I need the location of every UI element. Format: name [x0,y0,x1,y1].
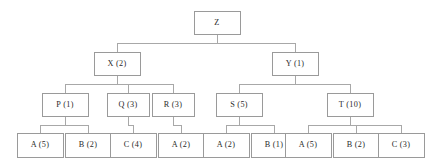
tree-node-Q[interactable]: Q (3) [108,94,150,117]
node-label-S: S (5) [230,100,248,109]
tree-node-X[interactable]: X (2) [95,53,141,76]
tree-node-L9[interactable]: C (3) [379,134,425,158]
tree-node-L1[interactable]: A (5) [18,134,64,158]
tree-node-L8[interactable]: B (2) [334,134,380,158]
tree-node-P[interactable]: P (1) [43,94,89,117]
node-label-L4: A (2) [172,140,191,149]
node-label-L7: A (5) [299,140,318,149]
node-label-Y: Y (1) [286,59,305,68]
node-label-R: R (3) [164,100,183,109]
tree-node-L5[interactable]: A (2) [204,134,250,158]
tree-diagram-canvas: ZX (2)Y (1)P (1)Q (3)R (3)S (5)T (10)A (… [0,0,439,164]
tree-node-L7[interactable]: A (5) [286,134,332,158]
node-label-X: X (2) [107,59,126,68]
tree-node-Y[interactable]: Y (1) [273,53,319,76]
tree-diagram: ZX (2)Y (1)P (1)Q (3)R (3)S (5)T (10)A (… [0,0,439,164]
node-label-P: P (1) [56,100,73,109]
tree-node-R[interactable]: R (3) [153,94,195,117]
node-label-Q: Q (3) [118,100,137,109]
node-label-Z: Z [214,18,219,27]
node-label-L5: A (2) [217,140,236,149]
tree-node-T[interactable]: T (10) [328,94,374,117]
edges-layer [40,34,401,133]
tree-node-Z[interactable]: Z [195,12,241,35]
node-label-L6: B (1) [265,140,284,149]
node-label-L9: C (3) [392,140,411,149]
node-label-L8: B (2) [347,140,366,149]
node-label-L1: A (5) [31,140,50,149]
tree-node-L4[interactable]: A (2) [159,134,205,158]
tree-node-L3[interactable]: C (4) [111,134,157,158]
node-label-T: T (10) [339,100,361,109]
node-label-L2: B (2) [79,140,98,149]
node-label-L3: C (4) [124,140,143,149]
tree-node-L2[interactable]: B (2) [66,134,112,158]
tree-node-S[interactable]: S (5) [217,94,263,117]
